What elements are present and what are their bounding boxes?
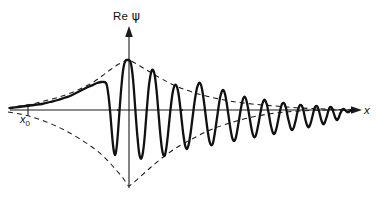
plot-canvas [0,0,379,204]
y-axis-arrowhead [125,26,133,37]
psi-symbol: ψ [132,8,141,23]
x0-label-subscript: 0 [26,119,30,128]
wave-packet-curve [10,60,353,159]
y-axis-label-re: Re [113,10,128,22]
x0-label: x0 [20,113,30,128]
x-axis-label: x [364,104,370,116]
y-axis-label: Re ψ [113,8,140,23]
lower-envelope-curve [8,110,352,186]
wave-packet-figure: Re ψ x x0 [0,0,379,204]
